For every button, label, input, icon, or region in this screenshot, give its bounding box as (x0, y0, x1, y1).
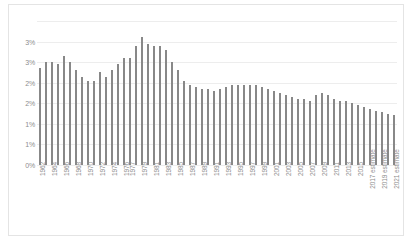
bar (213, 91, 215, 165)
bar (63, 56, 65, 165)
bar (339, 101, 341, 165)
plot-wrapper: 0%1%1%2%2%3%3% 1962196419661968197019721… (9, 5, 403, 235)
bar (333, 99, 335, 165)
bar (243, 85, 245, 165)
y-axis-tick-label: 1% (25, 141, 35, 148)
bar (231, 85, 233, 165)
bar (45, 62, 47, 165)
bar (351, 103, 353, 165)
bar (291, 97, 293, 165)
bar (237, 85, 239, 165)
bar (261, 87, 263, 165)
bar (117, 64, 119, 165)
bar (177, 70, 179, 165)
bar (87, 81, 89, 165)
chart-container: 0%1%1%2%2%3%3% 1962196419661968197019721… (8, 4, 404, 236)
bar (165, 50, 167, 165)
bar (255, 85, 257, 165)
y-axis-tick-label: 3% (25, 59, 35, 66)
y-axis-tick-label: 1% (25, 120, 35, 127)
bar (219, 89, 221, 165)
bar (309, 101, 311, 165)
bar (69, 62, 71, 165)
bar (249, 85, 251, 165)
bar (93, 81, 95, 165)
x-axis-slot: 2021 estimate (391, 167, 397, 235)
bar (303, 99, 305, 165)
bar (39, 68, 41, 165)
bar (99, 72, 101, 165)
bar (267, 89, 269, 165)
bar (123, 58, 125, 165)
bar (75, 70, 77, 165)
bar (297, 99, 299, 165)
plot-area (37, 21, 397, 165)
y-axis-tick-label: 3% (25, 38, 35, 45)
bar (159, 46, 161, 165)
bar (285, 95, 287, 165)
bar-series (37, 21, 397, 165)
bar (105, 77, 107, 165)
bar (189, 85, 191, 165)
bar (81, 77, 83, 165)
bar (183, 81, 185, 165)
bar (129, 58, 131, 165)
bar (345, 101, 347, 165)
bar (135, 46, 137, 165)
bar (171, 62, 173, 165)
y-axis: 0%1%1%2%2%3%3% (11, 5, 37, 235)
bar (279, 93, 281, 165)
bar (321, 93, 323, 165)
bar (51, 62, 53, 165)
bar (111, 70, 113, 165)
bar (141, 37, 143, 165)
bar (363, 107, 365, 165)
bar (195, 87, 197, 165)
bar (201, 89, 203, 165)
bar (357, 105, 359, 165)
x-axis-tick-label: 2021 estimate (394, 149, 401, 189)
bar-slot (391, 21, 397, 165)
bar (153, 46, 155, 165)
x-axis: 1962196419661968197019721974197619771979… (37, 167, 397, 235)
y-axis-tick-label: 2% (25, 100, 35, 107)
y-axis-tick-label: 2% (25, 79, 35, 86)
bar (225, 87, 227, 165)
y-axis-tick-label: 0% (25, 162, 35, 169)
bar (315, 95, 317, 165)
bar (327, 95, 329, 165)
bar (57, 64, 59, 165)
bar (273, 91, 275, 165)
bar (147, 44, 149, 165)
bar (207, 89, 209, 165)
